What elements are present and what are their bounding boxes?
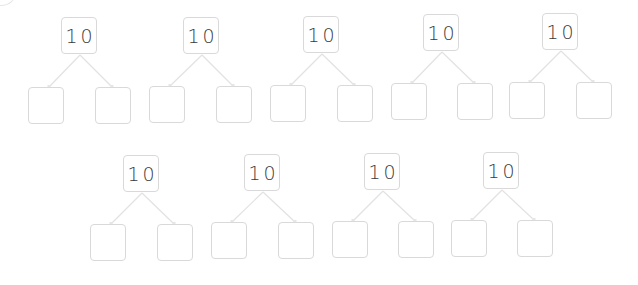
part-box-right[interactable] (95, 87, 131, 124)
whole-box: 10 (483, 152, 519, 189)
arrow-line-icon (202, 55, 233, 86)
part-box-right[interactable] (576, 82, 612, 119)
part-box-right[interactable] (517, 220, 553, 257)
arrow-line-icon (502, 190, 534, 220)
part-box-right[interactable] (457, 83, 493, 120)
part-box-left[interactable] (211, 222, 247, 259)
part-box-left[interactable] (451, 220, 487, 257)
arrow-line-icon (530, 51, 561, 82)
arrow-line-icon (111, 193, 142, 224)
arrow-line-icon (322, 54, 354, 85)
part-box-left[interactable] (332, 221, 368, 258)
arrow-line-icon (472, 190, 502, 220)
arrow-line-icon (412, 52, 442, 83)
part-box-left[interactable] (28, 87, 64, 124)
whole-box: 10 (61, 17, 97, 54)
part-box-left[interactable] (270, 85, 306, 122)
part-box-right[interactable] (216, 86, 252, 123)
arrow-line-icon (232, 192, 263, 222)
arrow-line-icon (353, 191, 383, 221)
part-box-right[interactable] (337, 85, 373, 122)
whole-value: 10 (127, 163, 157, 185)
whole-value: 10 (487, 160, 517, 182)
arrow-line-icon (291, 54, 322, 85)
part-box-left[interactable] (149, 86, 185, 123)
arrow-line-icon (561, 51, 593, 82)
whole-value: 10 (307, 24, 337, 46)
arrow-line-icon (383, 191, 415, 221)
arrow-line-icon (49, 55, 80, 87)
whole-value: 10 (427, 22, 457, 44)
whole-value: 10 (546, 21, 576, 43)
part-box-right[interactable] (398, 221, 434, 258)
arrow-line-icon (142, 193, 174, 224)
whole-box: 10 (303, 16, 339, 53)
whole-box: 10 (542, 13, 578, 50)
whole-value: 10 (65, 25, 95, 47)
arrow-line-icon (442, 52, 474, 83)
whole-box: 10 (244, 154, 280, 191)
whole-value: 10 (187, 25, 217, 47)
part-box-right[interactable] (278, 222, 314, 259)
whole-box: 10 (423, 14, 459, 51)
whole-box: 10 (123, 155, 159, 192)
whole-value: 10 (248, 162, 278, 184)
arrow-line-icon (170, 55, 202, 86)
arrow-line-icon (263, 192, 295, 222)
arrow-line-icon (80, 55, 112, 87)
whole-value: 10 (368, 161, 398, 183)
part-box-left[interactable] (391, 83, 427, 120)
whole-box: 10 (183, 17, 219, 54)
part-box-right[interactable] (157, 224, 193, 261)
part-box-left[interactable] (509, 82, 545, 119)
whole-box: 10 (364, 153, 400, 190)
part-box-left[interactable] (90, 224, 126, 261)
